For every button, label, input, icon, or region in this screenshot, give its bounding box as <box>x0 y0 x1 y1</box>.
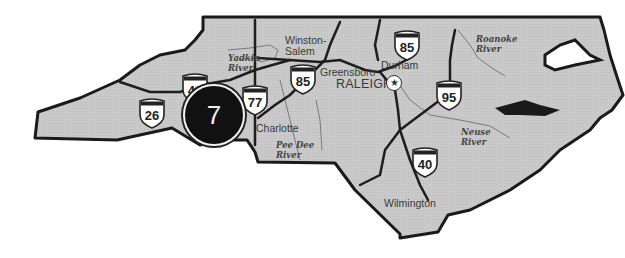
city-label-durham: Durham <box>381 60 418 71</box>
city-label-winston-salem: Winston- Salem <box>285 35 326 57</box>
region-number-badge: 7 <box>183 84 245 146</box>
interstate-shield-85-north: 85 <box>393 29 421 61</box>
shield-number: 85 <box>289 74 317 89</box>
city-label-raleigh: RALEIGH <box>336 79 392 90</box>
city-label-wilmington: Wilmington <box>384 198 436 209</box>
river-label-yadkin: Yadkin River <box>228 53 260 73</box>
shield-number: 95 <box>435 90 463 105</box>
river-label-pee-dee: Pee Dee River <box>276 140 314 160</box>
shield-number: 40 <box>411 157 439 172</box>
interstate-shield-26: 26 <box>138 97 166 129</box>
river-label-roanoke: Roanoke River <box>476 34 517 54</box>
shield-number: 77 <box>241 95 269 110</box>
interstate-shield-40-east: 40 <box>411 146 439 178</box>
river-label-neuse: Neuse River <box>461 127 491 147</box>
city-label-charlotte: Charlotte <box>256 123 299 134</box>
capital-star-icon: ★ <box>386 75 402 91</box>
interstate-shield-77: 77 <box>241 84 269 116</box>
shield-number: 85 <box>393 40 421 55</box>
interstate-shield-85-west: 85 <box>289 63 317 95</box>
region-number: 7 <box>185 86 243 144</box>
shield-number: 26 <box>138 108 166 123</box>
interstate-shield-95: 95 <box>435 79 463 111</box>
